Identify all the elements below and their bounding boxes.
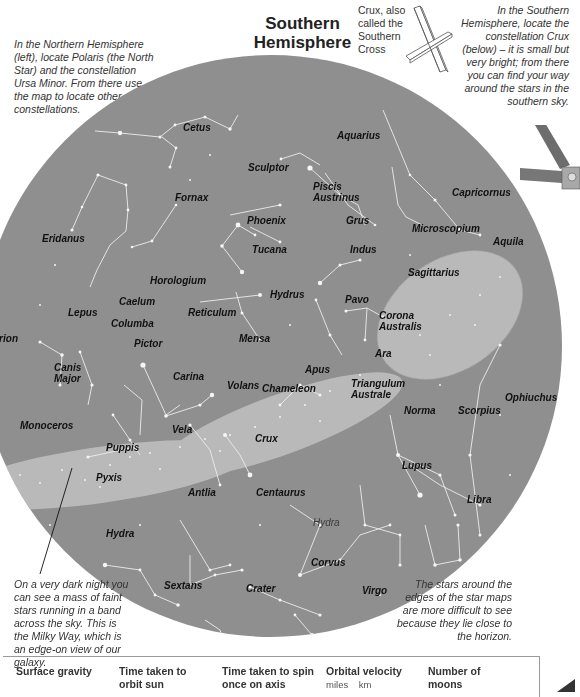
label-crux: Crux (255, 433, 278, 444)
label-mensa: Mensa (239, 333, 270, 344)
page-title: Southern Hemisphere (245, 14, 360, 52)
label-microscopium: Microscopium (412, 223, 480, 234)
col-surface-gravity: Surface gravity (16, 665, 106, 678)
label-ara: Ara (375, 348, 392, 359)
page-corner-shape (555, 675, 575, 692)
label-cetus: Cetus (183, 122, 211, 133)
label-norma: Norma (404, 405, 436, 416)
label-lepus: Lepus (68, 307, 97, 318)
crux-caption: Crux, also called the Southern Cross (358, 4, 408, 56)
label-pyxis: Pyxis (96, 472, 122, 483)
label-sagittarius: Sagittarius (408, 267, 460, 278)
label-fornax: Fornax (175, 192, 208, 203)
label-hydra-east: Hydra (313, 517, 340, 528)
label-hydrus: Hydrus (270, 289, 304, 300)
label-corvus: Corvus (311, 557, 345, 568)
label-eridanus: Eridanus (42, 233, 85, 244)
label-reticulum: Reticulum (188, 307, 236, 318)
col-number-of-moons: Number of moons (428, 665, 493, 691)
label-puppis: Puppis (106, 442, 139, 453)
col-orbital-velocity: Orbital velocity miles km (326, 665, 426, 691)
label-scorpius: Scorpius (458, 405, 501, 416)
label-pavo: Pavo (345, 294, 369, 305)
label-aquarius: Aquarius (337, 130, 380, 141)
southern-sky-star-map (0, 55, 562, 637)
label-aquila: Aquila (493, 236, 524, 247)
label-phoenix: Phoenix (247, 215, 286, 226)
label-capricornus: Capricornus (452, 187, 511, 198)
col-orbit-time: Time taken to orbit sun (119, 665, 194, 691)
label-piscis-austrinus: Piscis Austrinus (313, 181, 353, 203)
label-chameleon: Chameleon (262, 383, 316, 394)
label-carina: Carina (173, 371, 204, 382)
label-lupus: Lupus (402, 460, 432, 471)
label-antlia: Antlia (188, 487, 216, 498)
label-grus: Grus (346, 215, 369, 226)
col-orbital-velocity-title: Orbital velocity (326, 665, 426, 678)
label-horologium: Horologium (150, 275, 206, 286)
label-virgo: Virgo (362, 585, 387, 596)
label-triangulum-australe: Triangulum Australe (351, 378, 407, 400)
label-columba: Columba (111, 318, 154, 329)
label-crater: Crater (246, 583, 275, 594)
label-indus: Indus (350, 244, 377, 255)
label-canis-major: Canis Major (54, 362, 86, 384)
col-orbital-velocity-units: miles km (326, 678, 426, 691)
label-apus: Apus (305, 364, 330, 375)
label-centaurus: Centaurus (256, 487, 305, 498)
label-orion: Orion (0, 333, 18, 344)
label-vela: Vela (172, 424, 192, 435)
label-hydra-west: Hydra (106, 528, 134, 539)
label-tucana: Tucana (252, 244, 287, 255)
label-caelum: Caelum (119, 296, 155, 307)
label-ophiuchus: Ophiuchus (505, 392, 557, 403)
satellite-illustration-icon (520, 125, 580, 205)
label-pictor: Pictor (134, 338, 162, 349)
label-sextans: Sextans (164, 580, 202, 591)
label-volans: Volans (227, 380, 259, 391)
label-libra: Libra (467, 494, 491, 505)
label-sculptor: Sculptor (248, 162, 289, 173)
label-corona-australis: Corona Australis (379, 310, 421, 332)
col-spin-time: Time taken to spin once on axis (222, 665, 322, 691)
label-monoceros: Monoceros (20, 420, 73, 431)
horizon-note: The stars around the edges of the star m… (392, 578, 512, 643)
